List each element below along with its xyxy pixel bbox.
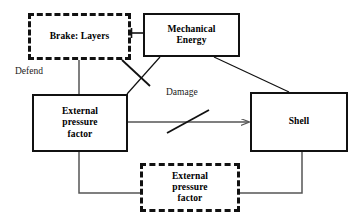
edge-mechanical-to-shell bbox=[214, 57, 289, 92]
edge-label-damage: Damage bbox=[166, 87, 198, 97]
diagram-canvas: Brake: Layers Mechanical Energy External… bbox=[0, 0, 362, 224]
edge-mechanical-to-external-pressure bbox=[122, 57, 160, 94]
node-mechanical-energy[interactable]: Mechanical Energy bbox=[143, 13, 240, 57]
node-shell-label: Shell bbox=[287, 116, 312, 127]
node-brake-layers-label: Brake: Layers bbox=[48, 31, 112, 42]
edge-shell-to-ghost bbox=[239, 152, 302, 193]
node-shell[interactable]: Shell bbox=[250, 92, 348, 152]
node-mechanical-energy-label: Mechanical Energy bbox=[166, 24, 218, 46]
edge-label-defend: Defend bbox=[15, 66, 43, 76]
node-external-pressure-factor-ghost[interactable]: External pressure factor bbox=[140, 163, 240, 212]
edge-external-pressure-to-shell bbox=[128, 110, 249, 133]
edge-brake-to-mechanical bbox=[131, 28, 143, 38]
node-brake-layers[interactable]: Brake: Layers bbox=[28, 13, 131, 60]
node-external-pressure-factor-main-label: External pressure factor bbox=[60, 106, 100, 140]
edge-external-pressure-to-ghost bbox=[79, 152, 141, 193]
node-external-pressure-factor-main[interactable]: External pressure factor bbox=[32, 94, 128, 152]
node-external-pressure-factor-ghost-label: External pressure factor bbox=[170, 171, 210, 205]
